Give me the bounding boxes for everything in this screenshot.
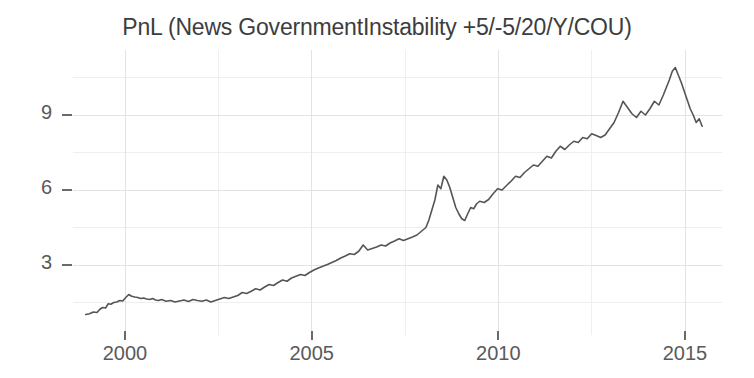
y-axis-tick-label: 6 — [18, 176, 52, 199]
x-axis-tick-label: 2010 — [463, 342, 533, 365]
data-series-line — [86, 68, 702, 315]
x-axis-tick-label: 2015 — [650, 342, 720, 365]
x-axis-tick-label: 2000 — [90, 342, 160, 365]
y-axis-tick-label: 3 — [18, 251, 52, 274]
grid-major — [73, 50, 723, 335]
x-axis-tick-label: 2005 — [277, 342, 347, 365]
plot-area — [0, 0, 754, 378]
grid-minor — [73, 50, 723, 335]
data-series-group — [86, 68, 702, 315]
chart-container: PnL (News GovernmentInstability +5/-5/20… — [0, 0, 754, 378]
y-axis-tick-label: 9 — [18, 101, 52, 124]
